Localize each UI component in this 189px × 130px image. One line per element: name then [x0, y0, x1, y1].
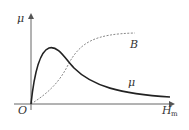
origin-label: O — [18, 104, 27, 117]
mu-curve — [31, 48, 170, 104]
b-curve — [31, 33, 135, 104]
b-curve-label: B — [129, 38, 138, 51]
y-axis-label: μ — [17, 12, 24, 25]
mu-b-diagram: μ B μ O H m — [0, 0, 189, 130]
mu-curve-label: μ — [128, 76, 135, 89]
x-axis-subscript: m — [171, 110, 178, 118]
